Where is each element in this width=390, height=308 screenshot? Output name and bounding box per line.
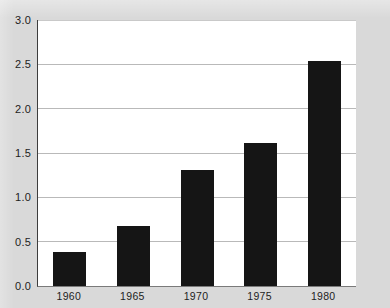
y-axis-tick-label: 1.0 [1,191,31,203]
gridline [38,20,356,21]
bar [53,252,86,286]
y-axis-tick-label: 3.0 [1,14,31,26]
bar [244,143,277,286]
bar-chart-figure: 0.00.51.01.52.02.53.0 196019651970197519… [0,0,390,308]
y-axis-tick-label: 1.5 [1,147,31,159]
plot-area [37,20,356,287]
y-axis-tick-label: 2.0 [1,103,31,115]
bar [117,226,150,286]
y-axis-tick-label: 2.5 [1,58,31,70]
y-axis-tick-label: 0.5 [1,236,31,248]
x-axis-tick-label: 1965 [102,290,162,302]
y-axis-tick-label: 0.0 [1,280,31,292]
bar [181,170,214,286]
x-axis-tick-label: 1960 [39,290,99,302]
x-axis-tick-label: 1975 [230,290,290,302]
bar [308,61,341,286]
x-axis-tick-label: 1980 [293,290,353,302]
x-axis-tick-label: 1970 [166,290,226,302]
